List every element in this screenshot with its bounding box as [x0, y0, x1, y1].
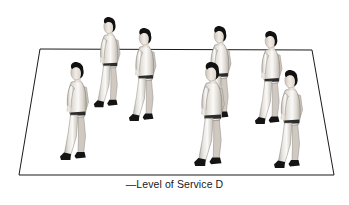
pedestrian-left-mid	[129, 28, 156, 121]
pedestrian-right-back	[255, 31, 282, 124]
pedestrian-left-back	[94, 17, 120, 107]
pedestrian-left-front	[60, 62, 89, 160]
level-of-service-figure: —Level of Service D	[0, 0, 349, 205]
figure-caption: —Level of Service D	[0, 178, 349, 190]
pedestrian-group	[60, 17, 303, 168]
scene-illustration	[0, 0, 349, 205]
